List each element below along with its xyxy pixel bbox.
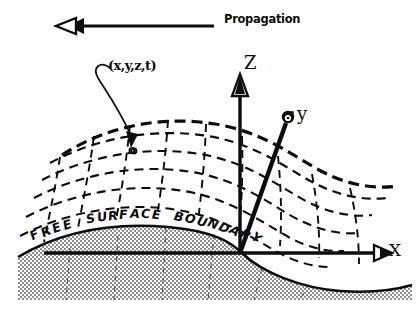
boundary-label-char: R (107, 207, 118, 223)
boundary-label-char: U (97, 209, 107, 225)
free-surface-boundary-label: FREESURFACEBOUNDARY (0, 0, 419, 321)
boundary-label-char: E (62, 216, 72, 233)
wave-propagation-figure: Propagation (x,y,z,t) o Z y X FREESURFAC… (0, 0, 419, 321)
boundary-label-char: E (150, 206, 163, 222)
boundary-label-char: F (118, 207, 128, 222)
boundary-label-char: F (28, 226, 40, 244)
boundary-label-char: S (85, 211, 95, 228)
boundary-label-char: E (51, 219, 62, 237)
